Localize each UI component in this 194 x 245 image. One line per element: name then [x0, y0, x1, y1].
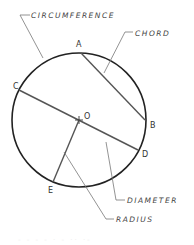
point-label-b: B [150, 121, 156, 130]
faint-caption: - - - - · - ·· ·- [18, 236, 92, 244]
point-label-c: C [13, 82, 19, 91]
point-label-e: E [48, 186, 53, 195]
center-label-o: O [84, 112, 90, 121]
term-chord: CHORD [135, 29, 170, 38]
point-label-d: D [142, 150, 148, 159]
term-circumference: CIRCUMFERENCE [31, 11, 115, 20]
circumference-leader [20, 15, 43, 58]
point-label-a: A [76, 40, 82, 49]
term-radius: RADIUS [116, 215, 154, 224]
term-diameter: DIAMETER [127, 196, 178, 205]
radius-line [53, 120, 79, 182]
circle-diagram: A B C D E O CIRCUMFERENCE CHORD DIAMETER… [0, 0, 194, 245]
